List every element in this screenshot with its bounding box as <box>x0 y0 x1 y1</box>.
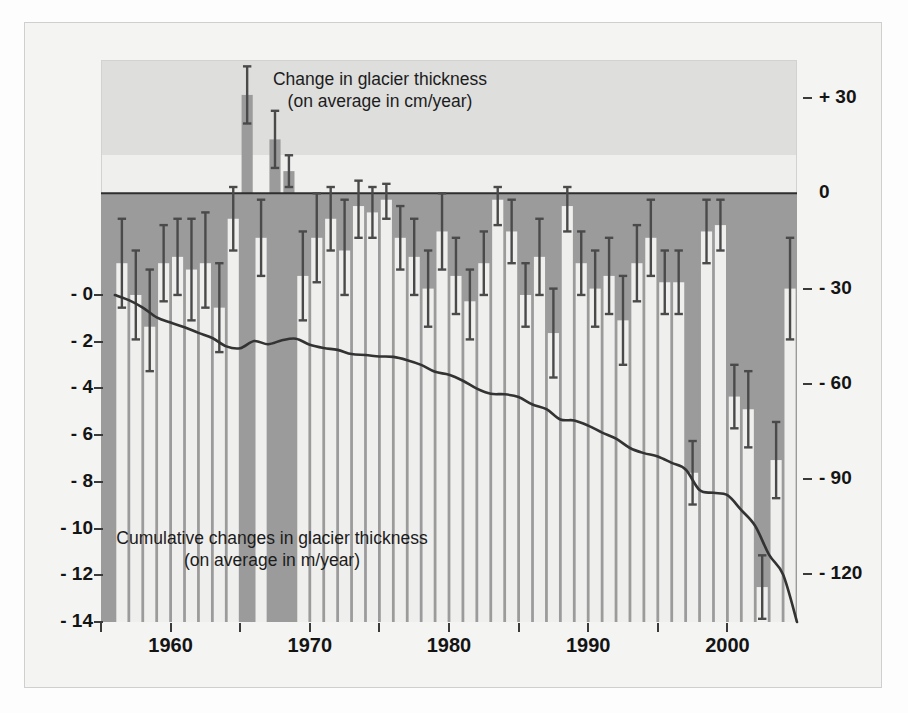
left-tick-mark <box>94 294 103 296</box>
right-tick-mark <box>803 288 812 290</box>
x-minor-tick-mark <box>239 623 241 632</box>
top-title-line1: Change in glacier thickness <box>210 68 550 90</box>
x-tick-mark <box>448 623 450 632</box>
left-tick-mark <box>94 574 103 576</box>
bottom-title-line1: Cumulative changes in glacier thickness <box>92 527 452 549</box>
left-tick-mark <box>94 341 103 343</box>
right-tick-label: - 30 <box>819 277 899 299</box>
right-tick-mark <box>803 573 812 575</box>
x-minor-tick-mark <box>378 623 380 632</box>
bar <box>423 289 434 622</box>
right-tick-label: - 120 <box>819 562 899 584</box>
right-tick-label: + 30 <box>819 86 899 108</box>
bottom-chart-title: Cumulative changes in glacier thickness … <box>92 527 452 572</box>
left-tick-label: - 12 <box>31 563 93 585</box>
bar <box>576 263 587 622</box>
bottom-title-line2: (on average in m/year) <box>92 549 452 571</box>
x-minor-tick-mark <box>518 623 520 632</box>
bar <box>604 276 615 622</box>
bar <box>492 200 503 622</box>
bar <box>659 282 670 622</box>
bar <box>590 289 601 622</box>
bar <box>715 225 726 622</box>
x-tick-mark <box>587 623 589 632</box>
bar <box>506 231 517 622</box>
right-tick-label: - 60 <box>819 372 899 394</box>
x-tick-label: 1980 <box>409 634 489 657</box>
bar <box>631 263 642 622</box>
bar <box>701 231 712 622</box>
right-tick-mark <box>803 97 812 99</box>
right-tick-mark <box>803 478 812 480</box>
bar <box>520 295 531 622</box>
bar <box>645 238 656 622</box>
bar <box>673 282 684 622</box>
right-tick-mark <box>803 383 812 385</box>
x-tick-label: 2000 <box>687 634 767 657</box>
bar <box>478 263 489 622</box>
bar <box>214 308 225 622</box>
left-tick-mark <box>94 387 103 389</box>
bar <box>562 206 573 622</box>
left-tick-label: - 6 <box>31 423 93 445</box>
chart-figure: - 0 - 2 - 4 - 6 - 8 - 10 - 12 - 14 + 30 … <box>0 0 908 713</box>
right-tick-label: - 90 <box>819 467 899 489</box>
x-tick-mark <box>170 623 172 632</box>
top-chart-title: Change in glacier thickness (on average … <box>210 68 550 113</box>
left-tick-mark <box>94 434 103 436</box>
x-minor-tick-mark <box>100 623 102 632</box>
left-tick-label: - 14 <box>31 610 93 632</box>
x-tick-label: 1990 <box>548 634 628 657</box>
left-tick-label: - 8 <box>31 470 93 492</box>
bar <box>130 295 141 622</box>
bar <box>534 257 545 622</box>
left-tick-label: - 4 <box>31 376 93 398</box>
right-tick-label: 0 <box>819 181 899 203</box>
x-minor-tick-mark <box>657 623 659 632</box>
bar <box>450 276 461 622</box>
left-tick-mark <box>94 481 103 483</box>
left-tick-mark <box>94 528 103 530</box>
x-tick-label: 1960 <box>131 634 211 657</box>
bar <box>464 301 475 622</box>
x-tick-mark <box>309 623 311 632</box>
left-tick-label: - 0 <box>31 283 93 305</box>
x-tick-mark <box>726 623 728 632</box>
x-tick-label: 1970 <box>270 634 350 657</box>
left-tick-label: - 2 <box>31 330 93 352</box>
top-title-line2: (on average in cm/year) <box>210 90 550 112</box>
bar <box>729 397 740 622</box>
left-tick-label: - 10 <box>31 517 93 539</box>
